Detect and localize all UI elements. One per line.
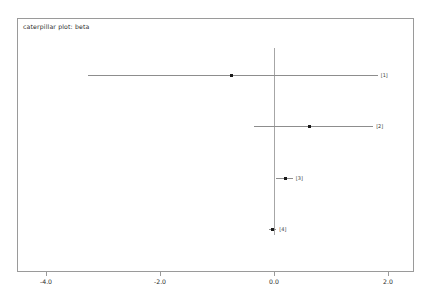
row-label: [2] [376,122,383,131]
x-axis-tick-label: -4.0 [40,278,52,285]
x-axis-tick-label: 0.0 [269,278,279,285]
caterpillar-row: [1] [0,71,435,80]
estimate-point-marker [230,74,233,77]
credible-interval-bar [254,126,373,127]
x-axis-tick-label: -2.0 [154,278,166,285]
caterpillar-row: [3] [0,174,435,183]
row-label: [1] [381,71,388,80]
x-axis-tick [388,272,389,276]
row-label: [3] [296,174,303,183]
x-axis-tick [274,272,275,276]
estimate-point-marker [284,177,287,180]
chart-title: caterpillar plot: beta [23,23,90,30]
row-label: [4] [279,225,286,234]
estimate-point-marker [308,125,311,128]
x-axis-tick-label: 2.0 [383,278,393,285]
caterpillar-plot-figure: caterpillar plot: beta [1][2][3][4] -4.0… [0,0,435,304]
x-axis-tick [160,272,161,276]
caterpillar-row: [4] [0,225,435,234]
x-axis-tick [46,272,47,276]
caterpillar-row: [2] [0,122,435,131]
estimate-point-marker [271,228,274,231]
